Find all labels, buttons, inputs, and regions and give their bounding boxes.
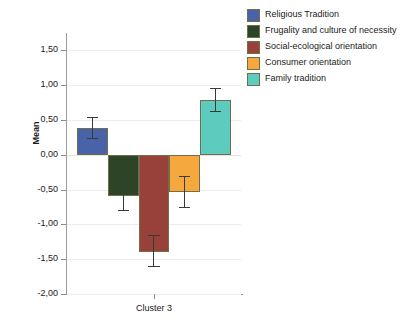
legend-item[interactable]: Frugality and culture of necessity <box>247 24 399 38</box>
error-bar <box>210 88 221 112</box>
error-bar <box>118 183 129 212</box>
error-bar-cap-bottom <box>210 111 221 112</box>
error-bar-stem <box>215 88 216 112</box>
y-tick-label: 0,00 <box>18 149 58 159</box>
error-bar <box>179 176 190 208</box>
y-tick-mark <box>61 224 66 225</box>
x-tick-mark <box>154 294 155 299</box>
y-axis-line <box>66 33 67 295</box>
error-bar-cap-bottom <box>148 266 159 267</box>
error-bar <box>148 235 159 267</box>
error-bar-stem <box>123 183 124 212</box>
y-tick-mark <box>61 120 66 121</box>
y-tick-label: 1,00 <box>18 79 58 89</box>
legend-item[interactable]: Religious Tradition <box>247 8 399 22</box>
legend-swatch <box>247 25 260 38</box>
y-tick-label: 1,50 <box>18 44 58 54</box>
legend-swatch <box>247 9 260 22</box>
y-tick-mark <box>61 50 66 51</box>
legend-label: Family tradition <box>265 72 326 83</box>
y-tick-mark <box>61 259 66 260</box>
error-bar-stem <box>92 117 93 140</box>
legend-swatch <box>247 41 260 54</box>
y-tick-mark <box>61 155 66 156</box>
error-bar-cap-bottom <box>179 207 190 208</box>
y-tick-label: -2,00 <box>18 288 58 298</box>
y-tick-mark <box>61 294 66 295</box>
y-tick-label: -1,50 <box>18 253 58 263</box>
legend-item[interactable]: Consumer orientation <box>247 56 399 70</box>
error-bar-stem <box>184 176 185 208</box>
y-tick-mark <box>61 85 66 86</box>
legend-swatch <box>247 57 260 70</box>
legend-label: Consumer orientation <box>265 56 351 67</box>
error-bar-stem <box>153 235 154 267</box>
gridline <box>67 85 241 86</box>
legend-label: Religious Tradition <box>265 8 339 19</box>
y-tick-label: -0,50 <box>18 184 58 194</box>
y-tick-label: -1,00 <box>18 218 58 228</box>
y-tick-label: 0,50 <box>18 114 58 124</box>
error-bar-cap-bottom <box>118 210 129 211</box>
legend-label: Social-ecological orientation <box>265 40 377 51</box>
legend-item[interactable]: Family tradition <box>247 72 399 86</box>
bar-chart: Mean 1,501,000,500,00-0,50-1,00-1,50-2,0… <box>0 0 403 331</box>
x-axis-category-label: Cluster 3 <box>104 303 204 313</box>
gridline <box>67 50 241 51</box>
legend-item[interactable]: Social-ecological orientation <box>247 40 399 54</box>
error-bar-cap-bottom <box>87 138 98 139</box>
legend: Religious TraditionFrugality and culture… <box>247 8 399 88</box>
y-tick-mark <box>61 190 66 191</box>
legend-label: Frugality and culture of necessity <box>265 24 397 35</box>
error-bar <box>87 117 98 140</box>
legend-swatch <box>247 73 260 86</box>
